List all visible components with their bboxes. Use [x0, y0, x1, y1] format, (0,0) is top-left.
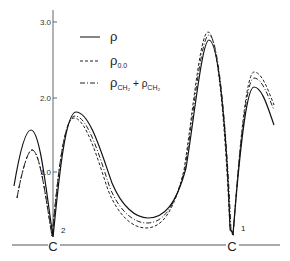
legend-label-rhoch2-sum: ρCH₂ + ρCH₂	[110, 75, 160, 91]
atom-label-c2: C	[48, 239, 57, 254]
atom-number-2: 2	[61, 226, 66, 235]
atom-label-c1: C	[227, 239, 236, 254]
legend-label-rho00: ρ0.0	[110, 53, 127, 69]
atom-number-1: 1	[241, 224, 246, 233]
density-chart: 3.0 2.0 1.0 ρ ρ0.0 ρCH₂ + ρCH₂ C 2 C 1	[0, 0, 290, 261]
y-tick-label-2: 2.0	[40, 94, 52, 103]
y-tick-label-3: 3.0	[40, 18, 52, 27]
legend-label-rho: ρ	[110, 29, 117, 44]
